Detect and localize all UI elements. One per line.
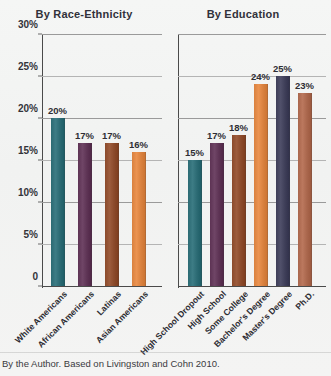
y-axis-tick-label: 10% — [18, 187, 38, 198]
figure-caption: By the Author. Based on Livingston and C… — [2, 358, 220, 369]
y-axis-tick-label: 5% — [24, 229, 38, 240]
y-axis-tick-mark — [38, 76, 42, 77]
bar[interactable]: 16% — [132, 152, 146, 286]
y-axis-tick-label: 20% — [18, 103, 38, 114]
y-axis-tick-mark — [38, 244, 42, 245]
bar-value-label: 16% — [129, 139, 148, 150]
bar[interactable]: 25% — [276, 76, 290, 286]
x-axis-labels: White AmericansAfrican AmericansLatinasA… — [0, 289, 331, 351]
bar-slot: 24% — [254, 35, 267, 286]
bar-slot: 23% — [298, 35, 311, 286]
bar-group-education: 15%17%18%24%25%23% — [179, 35, 326, 286]
y-axis-tick-mark — [38, 286, 42, 287]
y-axis-tick-mark — [38, 118, 42, 119]
bar-value-label: 25% — [273, 63, 292, 74]
bar-value-label: 15% — [185, 147, 204, 158]
y-axis-tick-mark — [38, 34, 42, 35]
bar-slot: 25% — [276, 35, 289, 286]
y-axis-tick-mark — [38, 202, 42, 203]
x-axis-education — [178, 286, 326, 287]
bar-value-label: 24% — [251, 71, 270, 82]
bar-value-label: 18% — [229, 122, 248, 133]
bar[interactable]: 17% — [78, 143, 92, 286]
bar[interactable]: 18% — [232, 135, 246, 286]
bar-value-label: 17% — [207, 130, 226, 141]
caption-divider — [0, 352, 331, 353]
y-axis-tick-label: 0 — [32, 271, 38, 282]
y-axis-tick-label: 15% — [18, 145, 38, 156]
bar[interactable]: 23% — [298, 93, 312, 286]
bar-group-race: 20%17%17%16% — [43, 35, 162, 286]
figure: By Race-Ethnicity 05%10%15%20%25%30% 20%… — [0, 0, 331, 376]
y-axis-tick-mark — [38, 160, 42, 161]
x-axis-race — [42, 286, 162, 287]
bar-slot: 16% — [132, 35, 145, 286]
bar-slot: 17% — [78, 35, 91, 286]
chart-title-education: By Education — [168, 8, 318, 20]
bar-value-label: 20% — [48, 105, 67, 116]
y-axis-tick-label: 25% — [18, 61, 38, 72]
bar[interactable]: 17% — [210, 143, 224, 286]
bar-value-label: 23% — [295, 80, 314, 91]
bar-slot: 17% — [210, 35, 223, 286]
bar[interactable]: 24% — [254, 84, 268, 286]
bar[interactable]: 17% — [105, 143, 119, 286]
bar[interactable]: 15% — [188, 160, 202, 286]
plot-area-education: 15%17%18%24%25%23% — [178, 35, 326, 287]
y-axis-tick-label: 30% — [18, 19, 38, 30]
bar-slot: 17% — [105, 35, 118, 286]
bar[interactable]: 20% — [51, 118, 65, 286]
bar-slot: 20% — [51, 35, 64, 286]
x-axis-label: Ph.D. — [293, 289, 316, 312]
bar-value-label: 17% — [75, 130, 94, 141]
plot-area-race-ethnicity: 05%10%15%20%25%30% 20%17%17%16% — [42, 35, 162, 287]
bar-value-label: 17% — [102, 130, 121, 141]
bar-slot: 18% — [232, 35, 245, 286]
bar-slot: 15% — [188, 35, 201, 286]
